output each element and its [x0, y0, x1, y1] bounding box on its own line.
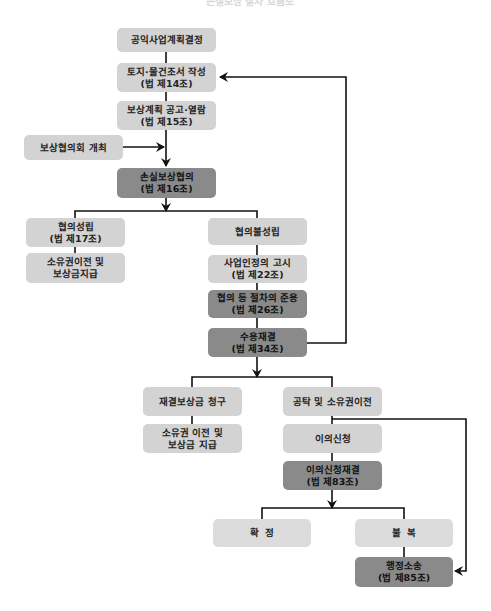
node-label: 이의신청 — [315, 433, 351, 445]
node-label: 사업인정의 고시 — [224, 257, 290, 269]
node-finalized: 확 정 — [213, 519, 311, 547]
node-deposit-ownership-transfer: 공탁 및 소유권이전 — [283, 387, 382, 416]
node-procedure-application: 협의 등 절차의 준용 (법 제26조) — [208, 290, 307, 318]
node-label: 소유권 이전 및 — [162, 427, 223, 439]
node-project-approval-notice: 사업인정의 고시 (법 제22조) — [208, 255, 307, 283]
node-label: 보상계획 공고·열람 — [127, 104, 206, 116]
node-sublabel: (법 제85조) — [378, 572, 430, 584]
node-sublabel: (법 제16조) — [140, 183, 192, 195]
node-sublabel: (법 제34조) — [231, 343, 283, 355]
node-label: 협의성립 — [58, 221, 94, 233]
node-label: 토지·물건조서 작성 — [127, 66, 206, 78]
node-sublabel: (법 제14조) — [140, 78, 192, 90]
node-label: 손실보상협의 — [140, 171, 194, 183]
node-objection: 이의신청 — [283, 424, 382, 453]
node-label: 재결보상금 청구 — [159, 396, 225, 408]
node-sublabel: 보상금 지급 — [168, 439, 216, 451]
node-label: 공탁 및 소유권이전 — [293, 396, 372, 408]
node-label: 공익사업계획결정 — [131, 34, 203, 46]
node-sublabel: (법 제83조) — [306, 476, 358, 488]
node-ownership-transfer-payment-2: 소유권 이전 및 보상금 지급 — [143, 424, 242, 453]
node-public-project-decision: 공익사업계획결정 — [117, 28, 216, 52]
node-label: 확 정 — [250, 527, 275, 539]
node-objection-ruling: 이의신청재결 (법 제83조) — [283, 461, 382, 490]
node-land-survey: 토지·물건조서 작성 (법 제14조) — [117, 63, 216, 92]
node-compensation-council: 보상협의회 개최 — [24, 135, 123, 160]
node-label: 보상협의회 개최 — [40, 142, 106, 154]
node-label: 이의신청재결 — [306, 464, 360, 476]
node-sublabel: (법 제15조) — [140, 116, 192, 128]
node-sublabel: (법 제22조) — [231, 269, 283, 281]
node-compensation-plan-notice: 보상계획 공고·열람 (법 제15조) — [117, 101, 216, 130]
node-label: 소유권이전 및 — [47, 256, 104, 268]
node-ownership-transfer-payment: 소유권이전 및 보상금지급 — [26, 253, 125, 283]
node-agreement-reached: 협의성립 (법 제17조) — [26, 218, 125, 247]
node-label: 불 복 — [392, 527, 417, 539]
node-expropriation-ruling: 수용재결 (법 제34조) — [208, 328, 307, 357]
node-loss-compensation-consultation: 손실보상협의 (법 제16조) — [117, 168, 216, 198]
node-label: 행정소송 — [386, 560, 422, 572]
node-label: 협의 등 절차의 준용 — [217, 292, 299, 304]
node-sublabel: (법 제17조) — [49, 233, 101, 245]
node-label: 수용재결 — [240, 331, 276, 343]
node-ruling-compensation-claim: 재결보상금 청구 — [143, 387, 242, 416]
node-administrative-litigation: 행정소송 (법 제85조) — [355, 557, 453, 587]
node-label: 협의불성립 — [235, 226, 280, 238]
node-sublabel: (법 제26조) — [231, 304, 283, 316]
node-agreement-failed: 협의불성립 — [208, 218, 307, 245]
node-dissatisfaction: 불 복 — [355, 519, 453, 547]
node-sublabel: 보상금지급 — [53, 268, 98, 280]
